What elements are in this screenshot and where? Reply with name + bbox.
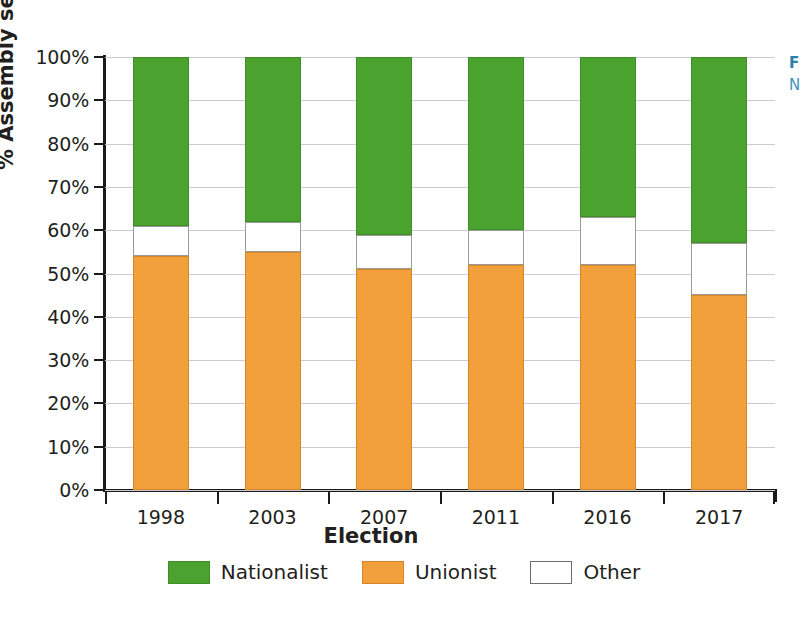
chart-legend: NationalistUnionistOther	[0, 560, 808, 584]
y-tick-label-40: 40%	[47, 306, 89, 328]
y-tick-label-50: 50%	[47, 263, 89, 285]
bar-segment-other-2011[interactable]	[468, 230, 524, 265]
margin-note-line-2: N	[789, 74, 808, 96]
bar-column-2007[interactable]	[356, 57, 412, 490]
bar-segment-nationalist-2016[interactable]	[580, 57, 636, 217]
bar-segment-nationalist-1998[interactable]	[133, 57, 189, 226]
legend-swatch-nationalist	[168, 561, 210, 584]
gridline-0	[105, 490, 775, 491]
bar-segment-unionist-2017[interactable]	[691, 295, 747, 490]
margin-note-line-1: F	[789, 52, 808, 74]
y-tick-label-70: 70%	[47, 176, 89, 198]
bar-segment-unionist-2011[interactable]	[468, 265, 524, 490]
bar-segment-unionist-2003[interactable]	[245, 252, 301, 490]
x-tick-mark-1	[217, 492, 219, 504]
y-tick-label-60: 60%	[47, 219, 89, 241]
y-tick-label-10: 10%	[47, 436, 89, 458]
bar-segment-other-2017[interactable]	[691, 243, 747, 295]
bar-column-2017[interactable]	[691, 57, 747, 490]
plot-area	[105, 57, 775, 490]
legend-label-other: Other	[583, 560, 640, 584]
x-tick-mark-2	[328, 492, 330, 504]
x-tick-mark-0	[105, 492, 107, 504]
bar-series-group	[105, 57, 775, 490]
y-tick-label-90: 90%	[47, 89, 89, 111]
legend-item-nationalist[interactable]: Nationalist	[168, 560, 328, 584]
bar-segment-other-1998[interactable]	[133, 226, 189, 256]
bar-segment-unionist-2007[interactable]	[356, 269, 412, 490]
bar-column-2011[interactable]	[468, 57, 524, 490]
legend-label-unionist: Unionist	[415, 560, 497, 584]
legend-item-other[interactable]: Other	[530, 560, 640, 584]
bar-segment-other-2007[interactable]	[356, 235, 412, 270]
x-tick-mark-5	[663, 492, 665, 504]
chart-canvas: % Assembly seats 0%10%20%30%40%50%60%70%…	[0, 0, 808, 621]
bar-column-2003[interactable]	[245, 57, 301, 490]
bar-segment-nationalist-2007[interactable]	[356, 57, 412, 235]
bar-segment-nationalist-2011[interactable]	[468, 57, 524, 230]
x-axis-title: Election	[0, 524, 808, 548]
x-tick-mark-4	[552, 492, 554, 504]
x-tick-mark-6	[773, 492, 775, 504]
bar-segment-nationalist-2017[interactable]	[691, 57, 747, 243]
x-axis-title-text: Election	[324, 524, 419, 548]
y-axis-ticks: 0%10%20%30%40%50%60%70%80%90%100%	[0, 57, 105, 490]
legend-swatch-other	[530, 561, 572, 584]
bar-segment-nationalist-2003[interactable]	[245, 57, 301, 222]
bar-segment-other-2016[interactable]	[580, 217, 636, 265]
bar-segment-unionist-2016[interactable]	[580, 265, 636, 490]
bar-column-1998[interactable]	[133, 57, 189, 490]
legend-label-nationalist: Nationalist	[221, 560, 328, 584]
y-tick-label-30: 30%	[47, 349, 89, 371]
margin-note: F N	[789, 52, 808, 96]
y-tick-label-0: 0%	[59, 479, 89, 501]
x-tick-mark-3	[440, 492, 442, 504]
bar-segment-unionist-1998[interactable]	[133, 256, 189, 490]
y-tick-label-100: 100%	[35, 46, 89, 68]
legend-item-unionist[interactable]: Unionist	[362, 560, 497, 584]
y-tick-label-80: 80%	[47, 133, 89, 155]
bar-segment-other-2003[interactable]	[245, 222, 301, 252]
legend-swatch-unionist	[362, 561, 404, 584]
y-tick-label-20: 20%	[47, 392, 89, 414]
bar-column-2016[interactable]	[580, 57, 636, 490]
